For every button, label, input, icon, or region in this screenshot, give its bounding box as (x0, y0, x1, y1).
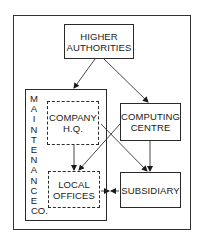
node-higher-authorities: HIGHER AUTHORITIES (64, 24, 134, 59)
computing-centre-line2: CENTRE (131, 122, 171, 133)
subsidiary-label: SUBSIDIARY (121, 185, 179, 196)
node-subsidiary: SUBSIDIARY (120, 172, 181, 208)
node-company-hq: COMPANY H.Q. (47, 101, 99, 145)
local-offices-line1: LOCAL (58, 179, 90, 190)
company-hq-line1: COMPANY (49, 112, 97, 123)
company-hq-line2: H.Q. (63, 123, 83, 134)
node-computing-centre: COMPUTING CENTRE (120, 103, 181, 141)
letter: CO. (31, 206, 39, 216)
higher-authorities-line2: AUTHORITIES (67, 42, 132, 53)
maintenance-co-vertical-label: M A I N T E N A N C E CO. (29, 94, 39, 216)
higher-authorities-line1: HIGHER (80, 31, 118, 42)
node-local-offices: LOCAL OFFICES (48, 171, 100, 208)
computing-centre-line1: COMPUTING (121, 111, 180, 122)
local-offices-line2: OFFICES (53, 190, 95, 201)
